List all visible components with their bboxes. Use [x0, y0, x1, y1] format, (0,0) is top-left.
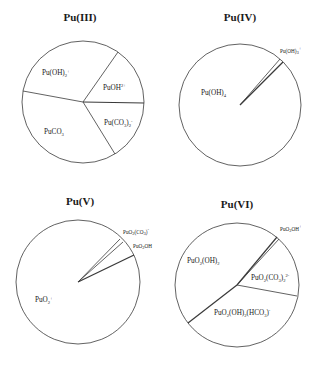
slice-label-puoh2: PuOH2+ — [103, 83, 126, 92]
chart-title-pu4: Pu(IV) — [224, 11, 257, 24]
slice-divider — [240, 62, 283, 105]
slice-label-puo2co32: PuO2(CO3)22- — [251, 273, 290, 283]
slice-label-puoh4: Pu(OH)4 — [201, 89, 227, 98]
chart-title-pu5: Pu(V) — [66, 195, 94, 208]
slice-divider — [188, 285, 237, 323]
slice-divider — [83, 52, 118, 102]
slice-label-puoh2p: Pu(OH)2+ — [42, 69, 70, 78]
slice-label-puo2: PuO2+ — [35, 296, 53, 305]
slice-divider — [83, 102, 115, 154]
slice-divider — [83, 102, 144, 103]
slice-label-puco3: PuCO3 — [44, 128, 65, 137]
slice-divider — [237, 285, 297, 296]
slice-divider — [23, 91, 83, 102]
slice-label-puco32: Pu(CO3)2- — [104, 119, 133, 128]
slice-label-puo2co3: PuO2(CO3)- — [123, 227, 150, 236]
slice-label-puo2ohp: PuO2OH+ — [280, 224, 302, 233]
chart-title-pu3: Pu(III) — [63, 11, 96, 24]
chart-title-pu6: Pu(VI) — [221, 198, 254, 211]
slice-divider — [78, 239, 120, 282]
pie-chart-panel: Pu(III) Pu(IV) Pu(V) Pu(VI) PuOH2+ Pu(CO… — [0, 0, 323, 369]
slice-label-puo2oh: PuO2OH — [133, 243, 152, 250]
slice-label-puo2oh2hco3: PuO2(OH)2(HCO3)- — [214, 308, 271, 318]
slice-label-puo2oh2: PuO2(OH)2 — [187, 257, 220, 266]
slice-divider — [78, 242, 123, 282]
slice-divider — [78, 255, 134, 282]
slice-label-puoh3: Pu(OH)3+ — [280, 46, 302, 55]
